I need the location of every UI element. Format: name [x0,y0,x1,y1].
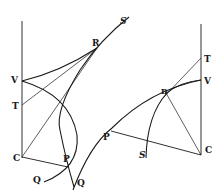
label-left-v: V [10,75,19,85]
label-left-q: Q [33,175,41,185]
line-c-n [166,93,201,155]
line-t-n [163,58,201,98]
arc-n-s [146,93,167,158]
label-left-s: S [120,16,127,26]
label-right-s: S [139,150,146,160]
label-left-t: T [12,101,19,111]
label-left-p: P [63,154,70,164]
line-c-p [22,157,68,167]
line-t-r [22,48,97,105]
label-right-c: C [205,145,212,155]
label-right-p: P [103,132,110,142]
label-right-t: T [204,54,211,64]
arc-n-v [165,80,201,94]
left-figure [22,17,129,187]
right-figure [73,24,201,190]
label-left-c: C [13,153,20,163]
line-p-c [111,131,201,155]
label-right-n: n [161,86,168,96]
geometry-figure: V T C P Q R S T V C P Q S n [0,0,223,191]
label-left-r: R [92,38,100,48]
label-right-q: Q [77,178,85,188]
line-c-r [22,48,97,157]
label-right-v: V [203,76,212,86]
curve-q-p-v [73,80,201,190]
